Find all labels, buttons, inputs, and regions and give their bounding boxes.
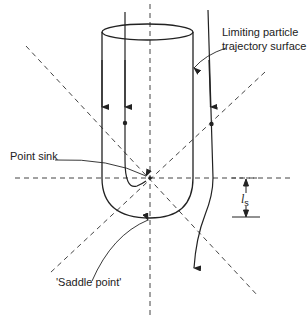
inner-trajectory [125, 12, 146, 186]
leader-lines [55, 48, 226, 281]
trajectories [102, 10, 213, 268]
diagonal-dashed-line-1 [26, 46, 258, 296]
point-sink-dot [148, 176, 152, 180]
arrowhead-icon [244, 210, 249, 217]
ls-symbol-subscript: s [244, 198, 249, 208]
limiting-surface [102, 24, 193, 218]
diagram-canvas: Limiting particle trajectory surface Poi… [0, 0, 307, 315]
saddle-point-label: 'Saddle point' [56, 276, 121, 289]
diagonal-dashed-line-2 [50, 72, 265, 273]
saddle-point-leader [92, 220, 148, 281]
limiting-surface-label-line1: Limiting particle [222, 26, 298, 39]
point-sink-leader [55, 160, 146, 176]
ls-symbol: ls [241, 193, 249, 210]
point-sink-label: Point sink [10, 150, 58, 163]
cylinder-top-ellipse [102, 24, 193, 40]
dot-markers [123, 121, 214, 180]
arrowhead-icon [244, 179, 249, 186]
limiting-surface-label-line2: trajectory surface [222, 40, 306, 53]
dot-marker-icon [209, 122, 213, 126]
cylinder-body [102, 32, 193, 218]
dot-marker-icon [123, 121, 127, 125]
outer-trajectory [194, 10, 213, 268]
